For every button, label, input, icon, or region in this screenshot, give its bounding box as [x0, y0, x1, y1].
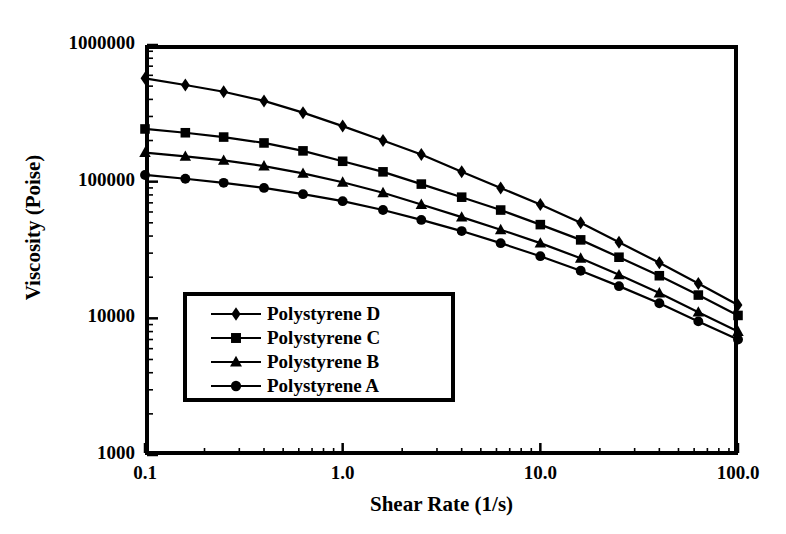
y-tick-label: 1000000 — [15, 32, 135, 54]
triangle-marker-icon — [207, 351, 265, 373]
square-marker-icon — [231, 333, 241, 343]
diamond-marker-icon — [694, 277, 703, 290]
circle-marker-icon — [219, 178, 229, 188]
square-marker-icon — [207, 327, 265, 349]
legend-item-label: Polystyrene A — [265, 375, 379, 397]
diamond-marker-icon — [615, 236, 624, 249]
circle-marker-icon — [298, 189, 308, 199]
circle-marker-icon — [231, 381, 241, 391]
legend-item-label: Polystyrene C — [265, 327, 380, 349]
circle-marker-icon — [259, 183, 269, 193]
circle-marker-icon — [576, 266, 586, 276]
square-marker-icon — [536, 220, 546, 230]
diamond-marker-icon — [141, 72, 150, 85]
circle-marker-icon — [614, 281, 624, 291]
circle-marker-icon — [180, 174, 190, 184]
diamond-marker-icon — [457, 165, 466, 178]
x-axis-title: Shear Rate (1/s) — [145, 492, 738, 517]
legend-item-label: Polystyrene B — [265, 351, 379, 373]
legend-item: Polystyrene B — [187, 350, 451, 374]
chart-legend: Polystyrene D Polystyrene C Polystyrene … — [183, 292, 455, 402]
circle-marker-icon — [207, 375, 265, 397]
circle-marker-icon — [140, 170, 150, 180]
legend-item-label: Polystyrene D — [265, 303, 380, 325]
legend-item: Polystyrene C — [187, 326, 451, 350]
square-marker-icon — [298, 146, 308, 156]
square-marker-icon — [457, 192, 467, 202]
square-marker-icon — [140, 124, 150, 134]
circle-marker-icon — [496, 238, 506, 248]
triangle-marker-icon — [139, 147, 150, 157]
circle-marker-icon — [457, 226, 467, 236]
circle-marker-icon — [338, 196, 348, 206]
circle-marker-icon — [654, 298, 664, 308]
x-tick-label: 1.0 — [283, 462, 403, 484]
diamond-marker-icon — [576, 216, 585, 229]
circle-marker-icon — [693, 316, 703, 326]
square-marker-icon — [338, 156, 348, 166]
diamond-marker-icon — [496, 181, 505, 194]
diamond-marker-icon — [219, 85, 228, 98]
circle-marker-icon — [733, 335, 743, 345]
square-marker-icon — [181, 128, 191, 138]
square-marker-icon — [496, 205, 506, 215]
x-tick-label: 0.1 — [85, 462, 205, 484]
square-marker-icon — [576, 235, 586, 245]
diamond-marker-icon — [536, 198, 545, 211]
circle-marker-icon — [416, 215, 426, 225]
square-marker-icon — [733, 311, 743, 321]
y-tick-label: 1000 — [15, 442, 135, 464]
diamond-marker-icon — [379, 134, 388, 147]
square-marker-icon — [219, 132, 229, 142]
x-tick-label: 100.0 — [678, 462, 786, 484]
diamond-marker-icon — [231, 307, 240, 321]
legend-item: Polystyrene D — [187, 302, 451, 326]
circle-marker-icon — [535, 251, 545, 261]
diamond-marker-icon — [207, 303, 265, 325]
diamond-marker-icon — [417, 148, 426, 161]
square-marker-icon — [378, 167, 388, 177]
diamond-marker-icon — [299, 106, 308, 119]
square-marker-icon — [259, 138, 269, 148]
y-tick-label: 100000 — [15, 169, 135, 191]
viscosity-shear-rate-chart: Viscosity (Poise) Shear Rate (1/s) Polys… — [0, 0, 786, 534]
square-marker-icon — [614, 252, 624, 262]
legend-item: Polystyrene A — [187, 374, 451, 398]
square-marker-icon — [417, 179, 427, 189]
diamond-marker-icon — [734, 299, 743, 312]
x-tick-label: 10.0 — [480, 462, 600, 484]
diamond-marker-icon — [260, 94, 269, 107]
circle-marker-icon — [378, 205, 388, 215]
y-tick-label: 10000 — [15, 305, 135, 327]
diamond-marker-icon — [655, 256, 664, 269]
diamond-marker-icon — [338, 120, 347, 133]
square-marker-icon — [655, 271, 665, 281]
square-marker-icon — [694, 290, 704, 300]
diamond-marker-icon — [181, 78, 190, 91]
